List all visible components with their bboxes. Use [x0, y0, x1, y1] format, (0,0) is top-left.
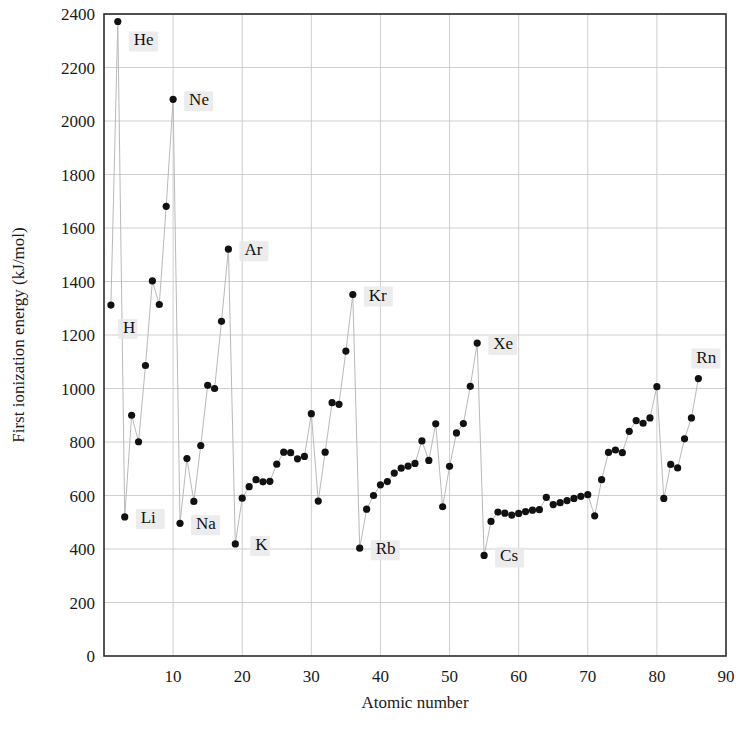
y-tick-label: 0: [87, 647, 96, 666]
data-point: [239, 495, 246, 502]
annotation-label-rn: Rn: [696, 348, 716, 367]
data-point: [190, 498, 197, 505]
data-point: [605, 449, 612, 456]
x-tick-label: 40: [372, 667, 389, 686]
data-point: [370, 492, 377, 499]
data-point: [232, 540, 239, 547]
y-axis-tick-labels: 0200400600800100012001400160018002000220…: [61, 5, 95, 666]
data-point: [646, 414, 653, 421]
data-point: [653, 383, 660, 390]
chart-plot-area: 0200400600800100012001400160018002000220…: [0, 0, 740, 729]
x-tick-label: 80: [648, 667, 665, 686]
y-tick-label: 2000: [61, 112, 95, 131]
data-point: [633, 417, 640, 424]
x-tick-label: 60: [510, 667, 527, 686]
x-tick-label: 70: [579, 667, 596, 686]
data-point: [598, 476, 605, 483]
y-tick-label: 400: [70, 540, 96, 559]
data-point: [149, 277, 156, 284]
data-point: [411, 460, 418, 467]
data-point: [142, 362, 149, 369]
data-point: [563, 497, 570, 504]
data-point: [681, 435, 688, 442]
annotation-label-cs: Cs: [500, 546, 518, 565]
data-point: [287, 449, 294, 456]
data-point: [612, 446, 619, 453]
data-point: [487, 518, 494, 525]
annotation-label-h: H: [123, 318, 135, 337]
data-point: [308, 410, 315, 417]
x-axis-title: Atomic number: [361, 693, 469, 712]
annotation-label-ar: Ar: [244, 240, 262, 259]
data-point: [515, 510, 522, 517]
data-point: [501, 510, 508, 517]
data-point: [667, 461, 674, 468]
data-point: [674, 464, 681, 471]
data-point: [246, 483, 253, 490]
x-tick-label: 20: [234, 667, 251, 686]
y-tick-label: 2400: [61, 5, 95, 24]
ionization-energy-chart: 0200400600800100012001400160018002000220…: [0, 0, 740, 729]
data-point: [135, 438, 142, 445]
data-point: [211, 385, 218, 392]
annotation-label-he: He: [134, 30, 154, 49]
data-point: [259, 478, 266, 485]
annotation-label-kr: Kr: [369, 286, 387, 305]
annotation-label-rb: Rb: [376, 539, 396, 558]
annotation-label-na: Na: [196, 514, 216, 533]
data-point: [363, 506, 370, 513]
y-tick-label: 1400: [61, 273, 95, 292]
data-point: [626, 428, 633, 435]
data-point: [529, 507, 536, 514]
data-point: [252, 476, 259, 483]
data-point: [446, 463, 453, 470]
data-point: [266, 478, 273, 485]
data-point: [591, 512, 598, 519]
data-point: [107, 301, 114, 308]
data-point: [550, 501, 557, 508]
data-point: [543, 494, 550, 501]
data-point: [639, 420, 646, 427]
data-point: [494, 508, 501, 515]
data-point: [183, 455, 190, 462]
data-point: [391, 469, 398, 476]
x-tick-label: 30: [303, 667, 320, 686]
data-point: [439, 503, 446, 510]
y-tick-label: 800: [70, 433, 96, 452]
data-point: [384, 478, 391, 485]
data-point: [398, 465, 405, 472]
data-point: [460, 420, 467, 427]
y-tick-label: 1200: [61, 326, 95, 345]
data-point: [536, 506, 543, 513]
data-point: [294, 455, 301, 462]
data-point: [508, 511, 515, 518]
annotation-label-ne: Ne: [189, 90, 209, 109]
data-point: [128, 412, 135, 419]
y-tick-label: 200: [70, 594, 96, 613]
data-point: [225, 246, 232, 253]
data-point: [695, 375, 702, 382]
data-point: [432, 420, 439, 427]
data-point: [557, 499, 564, 506]
x-tick-label: 50: [441, 667, 458, 686]
data-point: [522, 508, 529, 515]
y-tick-label: 2200: [61, 59, 95, 78]
data-point: [453, 429, 460, 436]
data-point: [315, 498, 322, 505]
data-point: [688, 414, 695, 421]
y-tick-label: 1000: [61, 380, 95, 399]
data-point: [322, 449, 329, 456]
data-point: [404, 462, 411, 469]
data-point: [474, 339, 481, 346]
annotation-label-xe: Xe: [493, 334, 513, 353]
data-point: [570, 495, 577, 502]
data-point: [114, 18, 121, 25]
x-tick-label: 10: [165, 667, 182, 686]
annotation-label-li: Li: [141, 508, 156, 527]
data-point: [335, 401, 342, 408]
data-point: [418, 437, 425, 444]
data-point: [121, 513, 128, 520]
data-point: [156, 301, 163, 308]
data-point: [584, 491, 591, 498]
y-axis-title: First ionization energy (kJ/mol): [9, 227, 28, 442]
